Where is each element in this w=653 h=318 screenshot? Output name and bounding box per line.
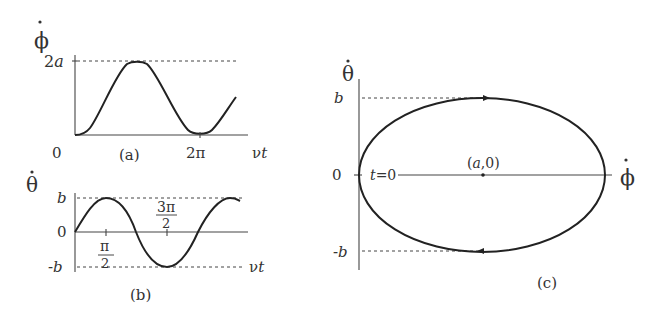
panel-a-y-label: ϕ: [34, 28, 49, 53]
panel-c-y-label: θ: [342, 62, 354, 86]
arrow-right-icon: [483, 95, 490, 101]
panel-b-caption: (b): [130, 286, 151, 304]
figure-canvas: ϕ 2a 0 2π νt (a) θ b 0 -b π 2 3π 2 νt (b…: [0, 0, 653, 318]
center-point: [481, 173, 485, 177]
panel-b-xtick-3pi2-den: 2: [162, 216, 170, 231]
panel-b-x-label: νt: [249, 258, 265, 276]
panel-c-center-label: (a,0): [467, 155, 500, 171]
panel-c-start-label: t=0: [370, 167, 396, 183]
panel-a-caption: (a): [119, 146, 140, 164]
panel-b-ytick-0: 0: [57, 223, 67, 241]
dot-accent: [346, 59, 349, 62]
panel-b-xtick-3pi2-num: 3π: [157, 199, 175, 215]
panel-b: θ b 0 -b π 2 3π 2 νt (b): [26, 170, 265, 304]
panel-a-ytick-2a: 2a: [44, 52, 64, 71]
panel-a-curve: [75, 62, 236, 135]
dot-accent: [624, 158, 627, 161]
arrow-left-icon: [477, 248, 484, 254]
panel-b-xtick-pi2-num: π: [100, 238, 109, 254]
dot-accent: [30, 170, 33, 173]
panel-b-y-label: θ: [26, 173, 38, 197]
panel-c-caption: (c): [537, 274, 557, 292]
panel-a-xtick-2pi: 2π: [186, 144, 206, 162]
panel-c: θ b 0 -b (a,0) t=0 ϕ (c): [332, 59, 635, 292]
panel-c-ytick-neg-b: -b: [333, 243, 348, 261]
dot-accent: [38, 20, 41, 23]
panel-a: ϕ 2a 0 2π νt (a): [34, 20, 268, 164]
panel-c-x-label: ϕ: [620, 165, 635, 190]
panel-a-x-label: νt: [252, 144, 268, 162]
panel-c-ytick-b: b: [334, 89, 344, 107]
panel-b-ytick-neg-b: -b: [48, 258, 63, 276]
panel-c-ytick-0: 0: [332, 166, 342, 184]
panel-b-xtick-pi2-den: 2: [101, 256, 109, 271]
panel-b-ytick-b: b: [57, 189, 67, 207]
panel-a-ytick-0: 0: [52, 144, 62, 162]
